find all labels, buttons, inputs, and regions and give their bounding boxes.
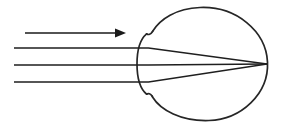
light-ray-lower xyxy=(14,64,267,82)
light-ray-upper xyxy=(14,48,267,64)
eye-optics-diagram: Parallel light rays focusing at the reti… xyxy=(0,0,281,125)
light-ray-central xyxy=(14,64,267,65)
corneal-notch-bottom xyxy=(147,94,153,97)
corneal-notch-top xyxy=(147,31,153,34)
light-rays-group xyxy=(14,48,267,82)
direction-arrow-group xyxy=(25,28,126,37)
direction-arrow-head-icon xyxy=(115,28,126,37)
eye-optics-canvas: Parallel light rays focusing at the reti… xyxy=(0,0,281,125)
cornea-arc xyxy=(137,34,147,94)
